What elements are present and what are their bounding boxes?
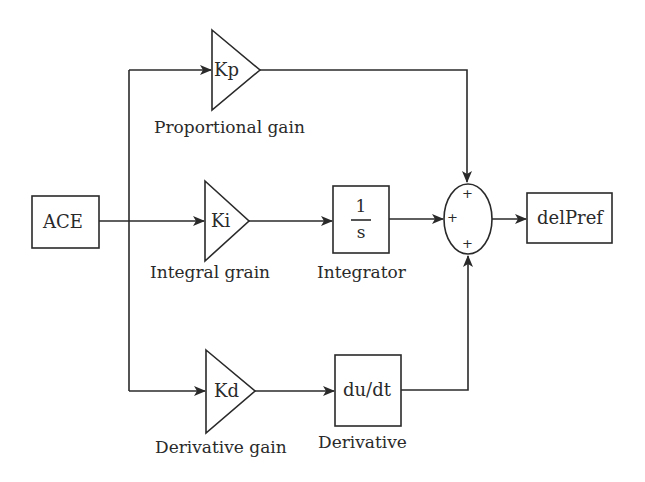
integrator-denominator: s: [333, 222, 389, 242]
ki-symbol: Ki: [211, 210, 230, 231]
ace-label: ACE: [43, 211, 83, 232]
derivative-to-sum-arrow: [401, 256, 468, 390]
pid-diagram-canvas: [0, 0, 645, 482]
derivative-label: du/dt: [343, 379, 391, 400]
kd-symbol: Kd: [214, 380, 239, 401]
derivative-caption: Derivative: [318, 432, 407, 452]
sum-sign-left: +: [447, 210, 458, 225]
kp-caption: Proportional gain: [154, 117, 305, 137]
integrator-numerator: 1: [333, 196, 389, 216]
sum-sign-bottom: +: [462, 236, 473, 251]
kd-caption: Derivative gain: [155, 437, 287, 457]
ki-caption: Integral grain: [150, 262, 270, 282]
sum-sign-top: +: [462, 186, 473, 201]
delpref-label: delPref: [537, 207, 603, 228]
kp-symbol: Kp: [214, 59, 239, 80]
integrator-caption: Integrator: [317, 262, 406, 282]
